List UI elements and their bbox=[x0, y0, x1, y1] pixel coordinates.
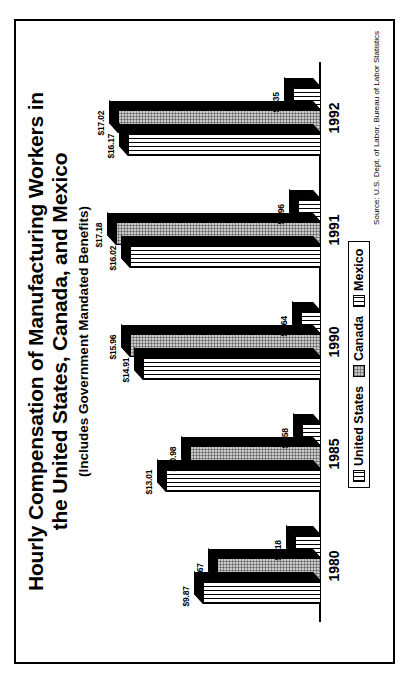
bar-united-states-1992 bbox=[128, 134, 321, 157]
bar-side-face bbox=[209, 550, 321, 559]
bar-value-label-united-states-1985: $13.01 bbox=[144, 470, 154, 495]
bar-front-face bbox=[130, 246, 321, 269]
bar-value-label-mexico-1990: $1.64 bbox=[279, 316, 289, 336]
category-label-1985: 1985 bbox=[326, 398, 342, 510]
bar-side-face bbox=[158, 461, 321, 470]
chart-poster-inner-frame: Hourly Compensation of Manufacturing Wor… bbox=[20, 25, 389, 658]
bar-group-1980 bbox=[106, 536, 321, 605]
legend-label-mexico: Mexico bbox=[352, 249, 366, 291]
bar-united-states-1990 bbox=[143, 358, 321, 381]
bar-value-label-mexico-1991: $1.96 bbox=[276, 204, 286, 224]
bar-side-face bbox=[182, 438, 321, 447]
bar-united-states-1991 bbox=[130, 246, 321, 269]
bar-side-face bbox=[122, 326, 321, 335]
bar-value-label-united-states-1980: $9.87 bbox=[181, 586, 191, 606]
bar-group-1992 bbox=[106, 88, 321, 157]
bar-front-face bbox=[166, 470, 321, 493]
legend-label-canada: Canada bbox=[352, 316, 366, 361]
bar-front-face bbox=[128, 134, 321, 157]
bar-side-face bbox=[122, 237, 321, 246]
legend-item-united-states: United States bbox=[352, 386, 366, 482]
bar-value-label-united-states-1991: $16.02 bbox=[108, 246, 118, 271]
bar-value-label-canada-1980: $8.67 bbox=[195, 563, 205, 583]
bar-value-label-mexico-1992: $2.35 bbox=[271, 92, 281, 112]
bar-united-states-1985 bbox=[166, 470, 321, 493]
bar-value-label-canada-1991: $17.18 bbox=[94, 223, 104, 248]
chart-title-line-1: Hourly Compensation of Manufacturing Wor… bbox=[24, 25, 48, 658]
bar-side-face bbox=[110, 102, 321, 111]
category-label-1992: 1992 bbox=[326, 62, 342, 174]
legend-swatch-mexico bbox=[353, 295, 365, 307]
legend-item-mexico: Mexico bbox=[352, 249, 366, 307]
chart-subtitle: (Includes Government Mandated Benefits) bbox=[76, 25, 91, 658]
bar-value-label-canada-1985: $10.98 bbox=[168, 447, 178, 472]
bar-front-face bbox=[143, 358, 321, 381]
chart-source-note: Source: U.S. Dept. of Labor, Bureau of L… bbox=[372, 31, 381, 225]
legend-swatch-united-states bbox=[353, 470, 365, 482]
bar-value-label-canada-1992: $17.02 bbox=[96, 111, 106, 136]
legend-label-united-states: United States bbox=[352, 386, 366, 466]
bar-side-face bbox=[135, 349, 321, 358]
legend-item-canada: Canada bbox=[352, 316, 366, 377]
chart-title-line-2: the United States, Canada, and Mexico bbox=[48, 25, 72, 658]
bar-value-label-mexico-1980: $2.18 bbox=[273, 540, 283, 560]
bar-front-face bbox=[203, 582, 321, 605]
bar-value-label-united-states-1992: $16.17 bbox=[106, 134, 116, 159]
chart-plot-area: $9.87$8.67$2.18$13.01$10.98$1.58$14.91$1… bbox=[106, 62, 321, 622]
chart-title-block: Hourly Compensation of Manufacturing Wor… bbox=[24, 25, 91, 658]
bar-value-label-united-states-1990: $14.91 bbox=[121, 358, 131, 383]
legend-swatch-canada bbox=[353, 365, 365, 377]
chart-stage: Hourly Compensation of Manufacturing Wor… bbox=[20, 25, 389, 658]
bar-side-face bbox=[120, 125, 321, 134]
bar-united-states-1980 bbox=[203, 582, 321, 605]
bar-value-label-canada-1990: $15.96 bbox=[108, 335, 118, 360]
chart-legend: United States Canada Mexico bbox=[348, 241, 370, 488]
bar-value-label-mexico-1985: $1.58 bbox=[280, 428, 290, 448]
chart-poster-frame: Hourly Compensation of Manufacturing Wor… bbox=[14, 19, 395, 664]
bar-side-face bbox=[108, 214, 321, 223]
bar-side-face bbox=[195, 573, 321, 582]
category-label-1991: 1991 bbox=[326, 174, 342, 286]
bar-group-1991 bbox=[106, 200, 321, 269]
category-label-1980: 1980 bbox=[326, 510, 342, 622]
category-label-1990: 1990 bbox=[326, 286, 342, 398]
